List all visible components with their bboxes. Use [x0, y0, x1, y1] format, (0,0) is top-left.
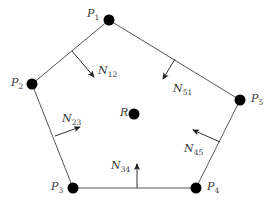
vertex-label-p4: P4 [207, 181, 219, 195]
vertex-label-p5: P5 [251, 93, 263, 107]
vertex-label-p2: P2 [11, 77, 23, 91]
normal-arrow-icon-n23 [55, 127, 80, 136]
normal-arrow-icon-n51 [163, 59, 175, 79]
normal-label-n51: N51 [173, 83, 192, 97]
vertex-p3 [68, 183, 79, 194]
normal-label-n23: N23 [62, 113, 81, 127]
vertex-label-p3: P3 [51, 181, 63, 195]
normal-arrow-icon-n12 [72, 51, 94, 77]
normal-label-n12: N12 [98, 65, 117, 79]
normal-arrow-icon-n45 [193, 130, 220, 142]
vertex-p1 [104, 15, 115, 26]
normal-label-n34: N34 [111, 160, 130, 174]
polygon-vertices [27, 15, 246, 194]
normal-label-n45: N45 [184, 143, 203, 157]
reference-point-label: R [120, 107, 128, 118]
vertex-label-p1: P1 [87, 8, 99, 22]
reference-point-r [129, 109, 140, 120]
polygon-normals-diagram [0, 0, 271, 201]
vertex-p5 [235, 95, 246, 106]
polygon-edges [32, 20, 240, 188]
vertex-p2 [27, 79, 38, 90]
edge-p2-p3 [32, 84, 73, 188]
vertex-p4 [191, 183, 202, 194]
